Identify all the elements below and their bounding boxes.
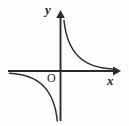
x-axis-label: x	[107, 74, 114, 87]
y-axis-label: y	[45, 3, 51, 16]
y-axis-arrow-icon	[56, 10, 65, 18]
hyperbola-branch-quadrant-1	[64, 21, 113, 69]
x-axis-arrow-icon	[113, 67, 121, 76]
coordinate-plane-svg	[0, 0, 129, 126]
origin-label: O	[47, 72, 56, 84]
hyperbola-graph-figure: y x O	[0, 0, 129, 126]
